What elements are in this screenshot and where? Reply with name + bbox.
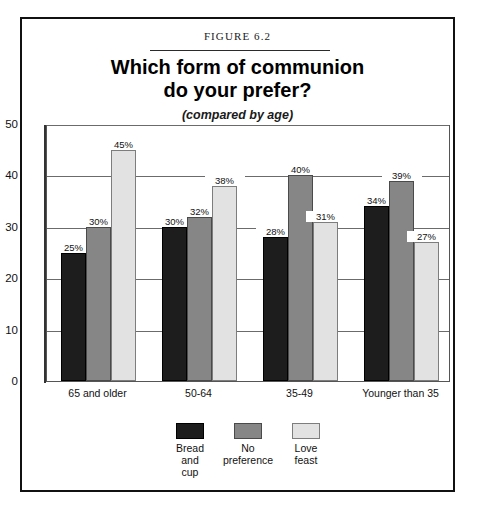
header-divider [150, 50, 330, 51]
chart-subtitle: (compared by age) [22, 108, 453, 122]
y-axis-tick-label: 10 [0, 324, 18, 336]
bar[interactable] [187, 217, 212, 381]
y-axis-tick-labels: 01020304050 [0, 125, 18, 382]
chart-title-line-2: do your prefer? [22, 79, 453, 102]
y-axis-tick-label: 50 [0, 118, 18, 130]
gridline [47, 125, 449, 126]
bar[interactable] [162, 227, 187, 381]
bar[interactable] [111, 150, 136, 381]
bar-value-label: 45% [104, 139, 144, 150]
bar[interactable] [389, 181, 414, 381]
bar-value-label: 39% [382, 170, 422, 181]
legend-item[interactable]: Love feast [278, 423, 334, 466]
bar[interactable] [364, 206, 389, 381]
x-axis-category-label: Younger than 35 [341, 387, 461, 399]
y-axis-tick-label: 20 [0, 272, 18, 284]
legend-item[interactable]: No preference [220, 423, 276, 466]
legend-swatch [176, 423, 204, 439]
plot-area: 25%30%45%30%32%38%28%40%31%34%39%27% [46, 125, 450, 382]
figure-card: FIGURE 6.2 Which form of communion do yo… [20, 17, 455, 492]
chart-legend: Bread and cupNo preferenceLove feast [162, 423, 332, 485]
figure-number-label: FIGURE 6.2 [22, 30, 453, 42]
bar[interactable] [313, 222, 338, 381]
legend-label: Bread and cup [162, 442, 218, 478]
legend-label: Love feast [278, 442, 334, 466]
bar[interactable] [86, 227, 111, 381]
chart-title-line-1: Which form of communion [22, 56, 453, 79]
y-axis-tick-label: 40 [0, 169, 18, 181]
y-axis-tick-label: 30 [0, 221, 18, 233]
bar[interactable] [263, 237, 288, 381]
bar-value-label: 38% [205, 175, 245, 186]
bar-value-label: 40% [281, 164, 321, 175]
bar-value-label: 31% [306, 211, 346, 222]
bar[interactable] [61, 253, 86, 382]
legend-label: No preference [220, 442, 276, 466]
bar[interactable] [414, 242, 439, 381]
y-axis-tick-label: 0 [0, 375, 18, 387]
bar[interactable] [212, 186, 237, 381]
bar[interactable] [288, 175, 313, 381]
legend-swatch [234, 423, 262, 439]
bar-value-label: 27% [407, 231, 447, 242]
page-title: Which form of communion do your prefer? [22, 56, 453, 102]
legend-swatch [292, 423, 320, 439]
legend-item[interactable]: Bread and cup [162, 423, 218, 478]
